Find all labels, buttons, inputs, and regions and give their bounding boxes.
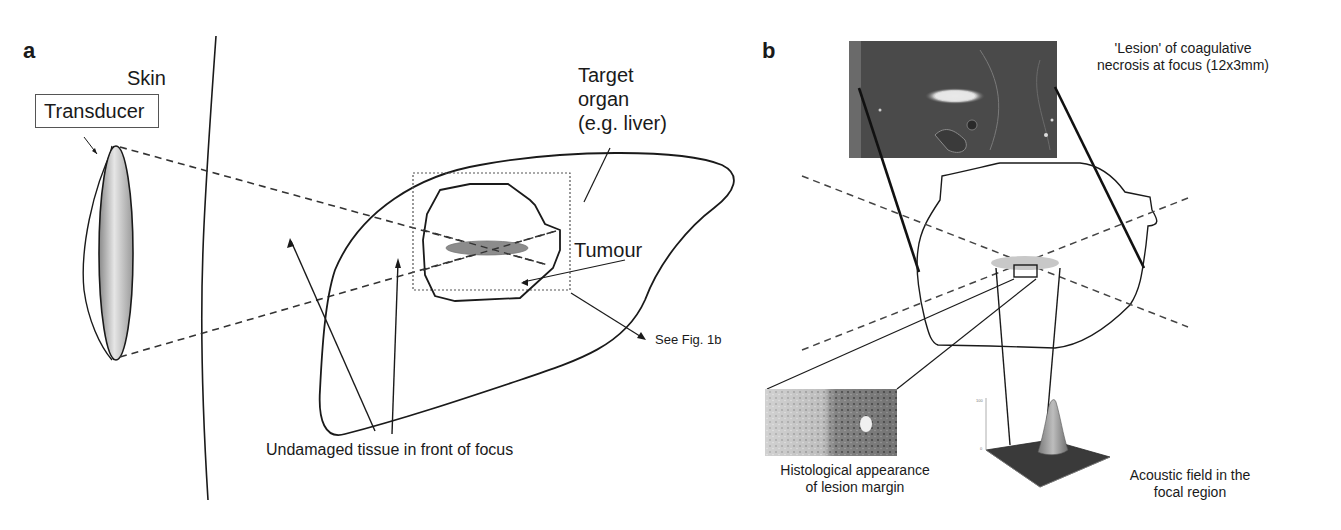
- target-organ-line-3: (e.g. liver): [578, 111, 667, 135]
- lesion-line-1: 'Lesion' of coagulative: [1068, 40, 1298, 57]
- svg-text:0: 0: [980, 446, 983, 451]
- acoustic-line-1: Acoustic field in the: [1115, 467, 1265, 484]
- transducer-icon: [83, 137, 133, 360]
- tissue-outline: [917, 163, 1157, 348]
- histology-photo: [765, 389, 897, 456]
- figure-canvas: 100 0: [0, 0, 1341, 530]
- panel-label-a: a: [23, 38, 35, 64]
- target-organ-line-2: organ: [578, 87, 667, 111]
- target-organ-label: Target organ (e.g. liver): [578, 63, 667, 135]
- target-organ-line-1: Target: [578, 63, 667, 87]
- panel-label-b: b: [762, 38, 775, 64]
- focal-disc: [991, 256, 1059, 270]
- organ-pointer: [584, 148, 610, 202]
- svg-text:100: 100: [976, 398, 983, 403]
- transducer-label: Transducer: [35, 94, 159, 128]
- see-fig-label: See Fig. 1b: [655, 332, 722, 347]
- histology-line-1: Histological appearance: [755, 462, 955, 479]
- target-organ-outline: [320, 153, 734, 435]
- see-fig-arrow: [571, 293, 643, 338]
- acoustic-field-plot: 100 0: [976, 398, 1110, 487]
- zoom-line-right: [1055, 87, 1144, 268]
- skin-label: Skin: [127, 66, 166, 90]
- acoustic-field-label: Acoustic field in the focal region: [1115, 467, 1265, 501]
- tumour-label: Tumour: [574, 238, 642, 262]
- acoustic-line-2: focal region: [1115, 484, 1265, 501]
- histology-line-2: of lesion margin: [755, 479, 955, 496]
- lesion-line-2: necrosis at focus (12x3mm): [1068, 57, 1298, 74]
- undamaged-tissue-label: Undamaged tissue in front of focus: [266, 440, 513, 459]
- inset-box: [413, 173, 570, 290]
- lesion-photo: [849, 41, 1057, 158]
- skin-line: [202, 36, 216, 500]
- histology-label: Histological appearance of lesion margin: [755, 462, 955, 496]
- tumour-pointer: [523, 260, 625, 282]
- lesion-label: 'Lesion' of coagulative necrosis at focu…: [1068, 40, 1298, 74]
- panel-b: 100 0: [765, 41, 1188, 487]
- undamaged-pointer-2: [392, 262, 398, 434]
- undamaged-pointer-1: [291, 241, 375, 431]
